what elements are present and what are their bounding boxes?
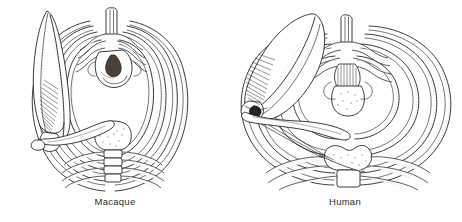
- human-diagram: [231, 0, 462, 196]
- figure-root: Macaque: [0, 0, 462, 222]
- macaque-scapula: [33, 11, 70, 151]
- macaque-diagram: [0, 0, 231, 196]
- human-label: Human: [329, 196, 361, 207]
- rib-stipple-shading: [72, 70, 186, 160]
- macaque-label: Macaque: [95, 196, 136, 207]
- human-scapula: [241, 14, 325, 121]
- macaque-sternum: [62, 121, 164, 188]
